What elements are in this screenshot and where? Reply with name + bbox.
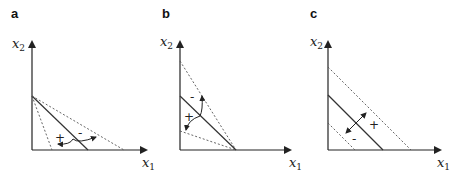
panel-label-b: b — [162, 6, 170, 21]
plus-sign-a: + — [55, 131, 65, 145]
dotted-line-shallow-a — [32, 96, 124, 150]
x-axis-label-b: x1 — [289, 155, 302, 172]
rotate-arrow-minus-b — [200, 96, 202, 116]
panel-c: c x2 x1 + - — [310, 6, 450, 172]
x-axis-label-a: x1 — [142, 155, 155, 172]
x-axis-label-c: x1 — [437, 155, 450, 172]
dotted-line-outer-c — [328, 67, 411, 150]
shift-arrow-plus-c — [355, 113, 366, 124]
y-axis-label-a: x2 — [12, 36, 25, 53]
panel-label-c: c — [310, 6, 317, 21]
dotted-line-inner-c — [328, 123, 355, 150]
dotted-line-shallow-b — [180, 131, 236, 150]
plus-sign-b: + — [184, 110, 194, 124]
y-axis-label-c: x2 — [310, 34, 323, 51]
figure-canvas: a x2 x1 + - b x2 x1 - + c — [0, 0, 460, 178]
minus-sign-a: - — [78, 126, 82, 140]
minus-sign-c: - — [352, 132, 356, 146]
dotted-line-steep-b — [180, 61, 236, 150]
panel-a: a x2 x1 + - — [11, 6, 155, 172]
y-axis-label-b: x2 — [160, 34, 173, 51]
panel-b: b x2 x1 - + — [160, 6, 302, 172]
panel-label-a: a — [11, 6, 19, 21]
minus-sign-b: - — [190, 90, 194, 104]
plus-sign-c: + — [369, 118, 379, 132]
dotted-line-steep-a — [32, 96, 52, 150]
